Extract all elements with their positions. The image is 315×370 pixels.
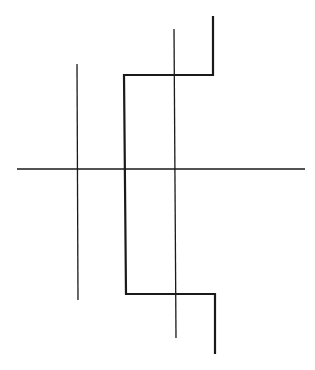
diagram-canvas bbox=[0, 0, 315, 370]
stepped-path bbox=[124, 16, 215, 354]
line-diagram bbox=[0, 0, 315, 370]
left-vertical-line bbox=[77, 64, 78, 300]
